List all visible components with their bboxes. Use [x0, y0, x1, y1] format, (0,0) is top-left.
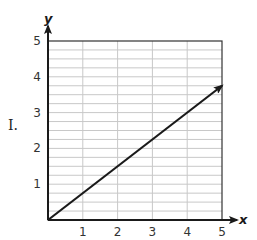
axes	[48, 26, 237, 220]
x-tick-label: 3	[149, 225, 157, 239]
y-tick-label: 1	[33, 177, 41, 191]
line-chart: 1234512345 x y	[0, 0, 257, 240]
data-series	[48, 86, 222, 220]
x-tick-label: 1	[79, 225, 87, 239]
y-tick-label: 5	[33, 34, 41, 48]
grid-lines	[48, 41, 222, 220]
series-line	[48, 86, 222, 220]
y-tick-label: 3	[33, 106, 41, 120]
y-axis-label: y	[44, 11, 53, 26]
x-tick-label: 2	[114, 225, 122, 239]
x-axis-label: x	[238, 212, 248, 227]
x-tick-label: 5	[218, 225, 226, 239]
y-tick-label: 4	[33, 70, 41, 84]
y-tick-label: 2	[33, 141, 41, 155]
x-tick-label: 4	[183, 225, 191, 239]
